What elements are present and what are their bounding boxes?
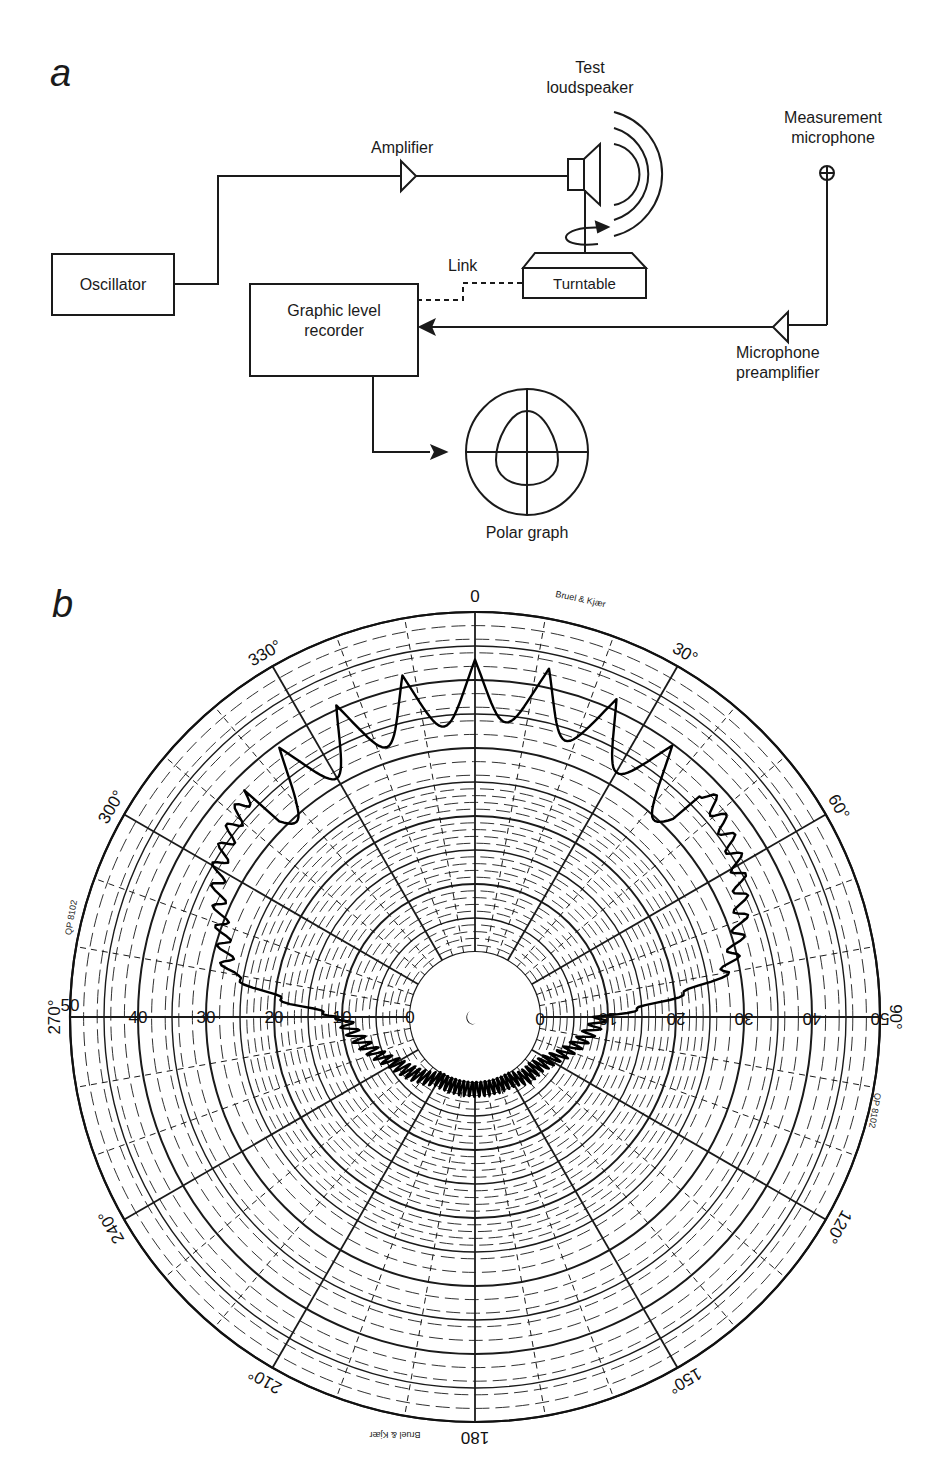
svg-text:10: 10: [333, 1008, 352, 1027]
svg-text:0: 0: [470, 587, 479, 606]
svg-text:20: 20: [667, 1009, 686, 1028]
svg-text:150°: 150°: [665, 1364, 705, 1398]
svg-text:Bruel & Kjær: Bruel & Kjær: [369, 1430, 420, 1440]
svg-text:300°: 300°: [94, 787, 128, 827]
svg-text:30: 30: [197, 1008, 216, 1027]
svg-text:210°: 210°: [245, 1364, 285, 1398]
svg-text:330°: 330°: [245, 636, 285, 670]
svg-text:120°: 120°: [822, 1207, 856, 1247]
svg-text:50: 50: [871, 1009, 890, 1028]
polar-chart: 030°60°90°120°150°180210°240°270°300°330…: [0, 0, 934, 1477]
svg-text:Bruel & Kjær: Bruel & Kjær: [555, 589, 607, 609]
svg-text:10: 10: [599, 1009, 618, 1028]
svg-text:50: 50: [61, 996, 80, 1015]
svg-text:40: 40: [129, 1008, 148, 1027]
svg-text:180: 180: [461, 1428, 489, 1447]
svg-text:240°: 240°: [94, 1207, 128, 1247]
svg-text:30: 30: [735, 1009, 754, 1028]
svg-text:0: 0: [535, 1009, 544, 1028]
svg-text:20: 20: [265, 1008, 284, 1027]
svg-text:0: 0: [405, 1008, 414, 1027]
svg-text:QP 8102: QP 8102: [63, 899, 79, 936]
center-disc: [410, 952, 540, 1082]
svg-text:40: 40: [803, 1009, 822, 1028]
